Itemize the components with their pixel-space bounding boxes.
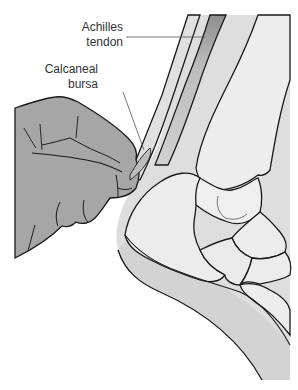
label-achilles-line2: tendon — [82, 35, 123, 50]
illustration-svg — [0, 0, 298, 390]
label-achilles-tendon: Achilles tendon — [82, 20, 123, 50]
anatomy-illustration: Achilles tendon Calcaneal bursa — [0, 0, 298, 390]
label-bursa-line1: Calcaneal — [45, 62, 98, 77]
label-calcaneal-bursa: Calcaneal bursa — [45, 62, 98, 92]
label-achilles-line1: Achilles — [82, 20, 123, 35]
label-bursa-line2: bursa — [45, 77, 98, 92]
